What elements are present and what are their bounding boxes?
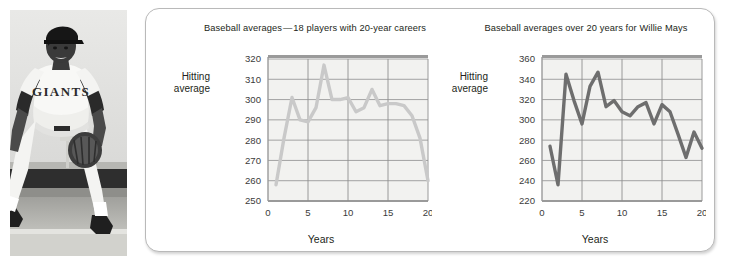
- chart-panel-left: Baseball averages — 18 players with 20-y…: [154, 9, 432, 251]
- y-tick-label: 280: [519, 135, 535, 146]
- x-tick-label: 5: [305, 207, 310, 218]
- y-axis-title-right: Hitting average: [432, 71, 488, 95]
- chart-title-left: Baseball averages — 18 players with 20-y…: [154, 23, 454, 33]
- y-tick-label: 220: [519, 195, 535, 206]
- y-axis-title-line1: Hitting: [432, 71, 488, 83]
- jersey-text: GIANTS: [32, 84, 90, 99]
- x-tick-label: 20: [697, 207, 706, 218]
- photo-svg: GIANTS: [10, 10, 127, 256]
- chart-title-right: Baseball averages over 20 years for Will…: [436, 23, 722, 33]
- y-tick-label: 360: [519, 53, 535, 64]
- y-tick-label: 270: [245, 155, 261, 166]
- plot-area-left: 25026027028029030031032005101520: [216, 47, 432, 227]
- y-axis-title-line1: Hitting: [154, 71, 210, 83]
- x-tick-label: 10: [617, 207, 628, 218]
- x-tick-label: 0: [539, 207, 544, 218]
- y-tick-label: 320: [245, 53, 261, 64]
- y-tick-label: 260: [519, 155, 535, 166]
- baseball-player-photo: GIANTS: [10, 10, 127, 256]
- x-tick-label: 20: [423, 207, 432, 218]
- y-tick-label: 310: [245, 74, 261, 85]
- charts-card: Baseball averages — 18 players with 20-y…: [145, 8, 715, 252]
- chart-panel-right: Baseball averages over 20 years for Will…: [436, 9, 708, 251]
- plot-area-right: 22024026028030032034036005101520: [490, 47, 706, 227]
- y-tick-label: 290: [245, 114, 261, 125]
- x-tick-label: 0: [265, 207, 270, 218]
- y-axis-title-left: Hitting average: [154, 71, 210, 95]
- y-tick-label: 280: [245, 135, 261, 146]
- x-tick-label: 5: [579, 207, 584, 218]
- x-tick-label: 10: [343, 207, 354, 218]
- y-tick-label: 240: [519, 175, 535, 186]
- y-tick-label: 260: [245, 175, 261, 186]
- x-axis-title-right: Years: [494, 233, 696, 245]
- y-tick-label: 320: [519, 94, 535, 105]
- x-tick-label: 15: [657, 207, 668, 218]
- y-axis-title-line2: average: [432, 83, 488, 95]
- y-axis-title-line2: average: [154, 83, 210, 95]
- y-tick-label: 340: [519, 74, 535, 85]
- plot-top-rule: [268, 55, 428, 58]
- x-axis-title-left: Years: [220, 233, 422, 245]
- plot-top-rule: [542, 55, 702, 58]
- y-tick-label: 250: [245, 195, 261, 206]
- y-tick-label: 300: [245, 94, 261, 105]
- x-tick-label: 15: [383, 207, 394, 218]
- y-tick-label: 300: [519, 114, 535, 125]
